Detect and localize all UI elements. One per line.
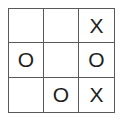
cell-r1c1[interactable]: [9, 9, 44, 43]
cell-r3c3[interactable]: X: [79, 78, 114, 112]
cell-mark-o: O: [18, 49, 34, 70]
cell-r1c2[interactable]: [44, 9, 79, 43]
cell-mark-x: X: [89, 84, 103, 105]
cell-r2c1[interactable]: O: [9, 43, 44, 77]
cell-mark-o: O: [88, 49, 104, 70]
cell-mark-x: X: [89, 15, 103, 36]
cell-r1c3[interactable]: X: [79, 9, 114, 43]
cell-mark-o: O: [53, 84, 69, 105]
cell-r3c1[interactable]: [9, 78, 44, 112]
cell-r3c2[interactable]: O: [44, 78, 79, 112]
cell-r2c2[interactable]: [44, 43, 79, 77]
tic-tac-toe-grid: X O O O X: [8, 8, 115, 113]
cell-r2c3[interactable]: O: [79, 43, 114, 77]
tic-tac-toe-diagram: X O O O X: [0, 0, 122, 124]
